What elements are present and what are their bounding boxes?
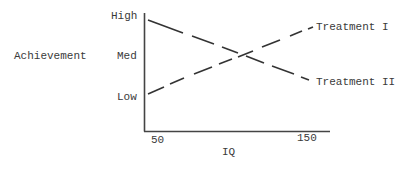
y-tick-low: Low — [117, 91, 137, 103]
series-treatment-2-line — [148, 20, 309, 80]
x-axis-label: IQ — [222, 146, 235, 158]
y-tick-med: Med — [117, 50, 137, 62]
legend-treatment-1: Treatment I — [316, 21, 389, 33]
legend-treatment-2: Treatment II — [316, 76, 395, 88]
y-axis-label: Achievement — [14, 50, 87, 62]
x-tick-50: 50 — [151, 134, 164, 146]
x-tick-150: 150 — [297, 132, 317, 144]
series-treatment-1-line — [148, 27, 313, 94]
y-tick-high: High — [111, 10, 137, 22]
